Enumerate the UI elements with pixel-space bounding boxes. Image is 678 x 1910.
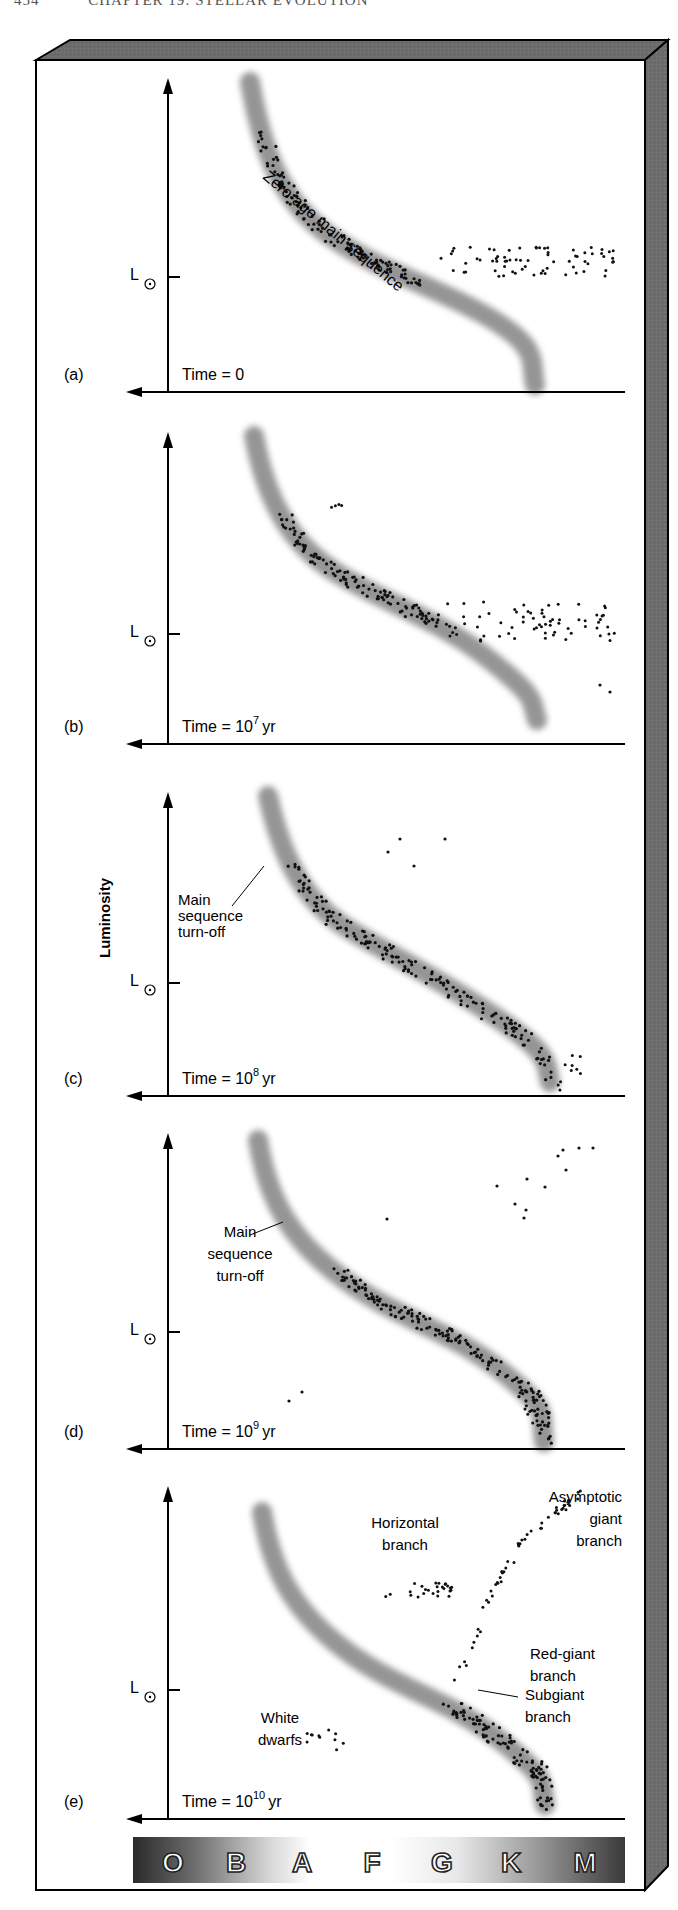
star-dot xyxy=(481,1714,484,1717)
star-dot xyxy=(472,1641,475,1644)
star-dot xyxy=(539,1772,542,1775)
star-dot xyxy=(538,1432,541,1435)
star-dot xyxy=(476,257,479,260)
star-dot xyxy=(533,1409,536,1412)
star-dot xyxy=(375,1295,378,1298)
star-dot xyxy=(523,1538,526,1541)
star-dot xyxy=(297,868,300,871)
star-dot xyxy=(423,966,426,969)
star-dot xyxy=(524,1029,527,1032)
frame-side-face xyxy=(645,40,668,1890)
star-dot xyxy=(371,934,374,937)
star-dot xyxy=(545,1808,548,1811)
time-label: Time = 108yr xyxy=(182,1066,276,1087)
star-dot xyxy=(557,1083,560,1086)
star-dot xyxy=(346,919,349,922)
star-dot xyxy=(336,1272,339,1275)
star-dot xyxy=(432,1592,435,1595)
star-dot xyxy=(413,1582,416,1585)
star-dot xyxy=(339,579,342,582)
star-dot xyxy=(539,1423,542,1426)
star-dot xyxy=(544,623,547,626)
star-dot xyxy=(577,603,580,606)
star-dot xyxy=(404,605,407,608)
spectral-class-O: O xyxy=(162,1847,184,1878)
star-dot xyxy=(482,1733,485,1736)
star-dot xyxy=(424,1588,427,1591)
star-dot xyxy=(329,240,332,243)
star-dot xyxy=(499,621,502,624)
star-dot xyxy=(558,618,561,621)
star-dot xyxy=(489,1589,492,1592)
star-dot xyxy=(436,1585,439,1588)
star-dot xyxy=(434,625,437,628)
star-dot xyxy=(378,945,381,948)
star-dot xyxy=(466,1342,469,1345)
star-dot xyxy=(353,1289,356,1292)
star-dot xyxy=(539,1796,542,1799)
star-dot xyxy=(523,1043,526,1046)
star-dot xyxy=(402,598,405,601)
star-dot xyxy=(325,562,328,565)
star-dot xyxy=(532,1396,535,1399)
star-dot xyxy=(452,247,455,250)
star-dot xyxy=(315,905,318,908)
star-dot xyxy=(531,1759,534,1762)
star-dot xyxy=(381,953,384,956)
turnoff-annotation-line: turn-off xyxy=(178,923,226,940)
star-dot xyxy=(521,1392,524,1395)
star-dot xyxy=(564,638,567,641)
star-dot xyxy=(353,575,356,578)
star-dot xyxy=(530,1032,533,1035)
subgiant-annotation-line: branch xyxy=(525,1708,571,1725)
star-dot xyxy=(532,1767,535,1770)
star-dot xyxy=(495,1359,498,1362)
star-dot xyxy=(297,889,300,892)
star-dot xyxy=(442,1703,445,1706)
star-dot xyxy=(380,1307,383,1310)
star-dot xyxy=(423,620,426,623)
star-dot xyxy=(557,603,560,606)
spectral-class-B: B xyxy=(226,1847,246,1878)
star-dot xyxy=(361,591,364,594)
star-dot xyxy=(542,1057,545,1060)
star-dot xyxy=(553,631,556,634)
star-dot xyxy=(496,1373,499,1376)
star-dot xyxy=(418,1312,421,1315)
figure-frame xyxy=(36,40,668,1890)
star-dot xyxy=(441,1331,444,1334)
star-dot xyxy=(530,1389,533,1392)
star-dot xyxy=(403,272,406,275)
star-dot xyxy=(491,1359,494,1362)
star-dot xyxy=(336,927,339,930)
star-dot xyxy=(367,1297,370,1300)
star-dot xyxy=(576,255,579,258)
star-dot xyxy=(481,1606,484,1609)
star-dot xyxy=(488,248,491,251)
star-dot xyxy=(513,637,516,640)
star-dot xyxy=(608,250,611,253)
star-dot xyxy=(376,597,379,600)
star-dot xyxy=(586,262,589,265)
star-dot xyxy=(422,1592,425,1595)
panel-label: (c) xyxy=(64,1070,83,1087)
star-dot xyxy=(435,978,438,981)
star-dot xyxy=(291,513,294,516)
star-dot xyxy=(452,986,455,989)
star-dot xyxy=(584,260,587,263)
star-dot xyxy=(505,1031,508,1034)
star-dot xyxy=(547,1059,550,1062)
star-dot xyxy=(454,626,457,629)
star-dot xyxy=(480,1017,483,1020)
panel-label: (a) xyxy=(64,366,84,383)
star-dot xyxy=(517,1395,520,1398)
star-dot xyxy=(552,260,555,263)
star-dot xyxy=(481,1011,484,1014)
star-dot xyxy=(481,1359,484,1362)
star-dot xyxy=(503,265,506,268)
star-dot xyxy=(440,257,443,260)
star-dot xyxy=(345,928,348,931)
star-dot xyxy=(374,589,377,592)
star-dot xyxy=(520,1759,523,1762)
star-dot xyxy=(436,1595,439,1598)
